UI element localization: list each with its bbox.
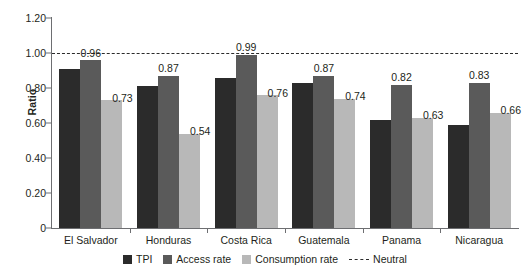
legend-swatch-icon (123, 255, 132, 264)
x-axis-category-label: Costa Rica (207, 234, 285, 250)
x-axis-category-label: Panama (363, 234, 441, 250)
chart-legend: TPIAccess rateConsumption rateNeutral (0, 253, 530, 265)
bar-rect (469, 83, 490, 228)
legend-label: Consumption rate (255, 253, 338, 265)
bar-access[interactable]: 0.99 (236, 18, 257, 228)
x-axis-category-label: Guatemala (285, 234, 363, 250)
bar-rect (137, 86, 158, 228)
bar-rect (236, 55, 257, 228)
bar-rect (158, 76, 179, 228)
bar-chart: Ratio 00.200.400.600.801.001.20 0.960.73… (0, 0, 530, 274)
legend-item-consumption[interactable]: Consumption rate (242, 253, 338, 265)
bar-value-label: 0.99 (236, 42, 256, 53)
y-axis-tick-label: 1.00 (6, 47, 46, 59)
x-axis-tick-mark (363, 228, 364, 233)
bar-group: 0.960.73 (52, 18, 130, 228)
legend-swatch-icon (163, 255, 172, 264)
bar-consumption[interactable]: 0.74 (334, 18, 355, 228)
bar-tpi[interactable] (448, 18, 469, 228)
bar-access[interactable]: 0.83 (469, 18, 490, 228)
bar-group: 0.830.66 (440, 18, 518, 228)
bar-rect (292, 83, 313, 228)
legend-label: Access rate (176, 253, 231, 265)
bar-rect (391, 85, 412, 229)
x-axis-category-label: Honduras (130, 234, 208, 250)
x-axis-tick-mark (130, 228, 131, 233)
bar-tpi[interactable] (59, 18, 80, 228)
bar-consumption[interactable]: 0.63 (412, 18, 433, 228)
bar-consumption[interactable]: 0.76 (257, 18, 278, 228)
y-axis-tick-label: 0 (6, 222, 46, 234)
bar-rect (101, 100, 122, 228)
legend-label: Neutral (373, 253, 407, 265)
x-axis-category-label: Nicaragua (440, 234, 518, 250)
bar-rect (80, 60, 101, 228)
bar-value-label: 0.82 (391, 72, 411, 83)
bar-rect (215, 78, 236, 229)
bar-tpi[interactable] (292, 18, 313, 228)
bar-groups: 0.960.730.870.540.990.760.870.740.820.63… (52, 18, 518, 228)
bar-value-label: 0.83 (469, 70, 489, 81)
bar-rect (490, 113, 511, 229)
bar-rect (334, 99, 355, 229)
bar-group: 0.820.63 (363, 18, 441, 228)
bar-consumption[interactable]: 0.73 (101, 18, 122, 228)
x-axis-category-labels: El SalvadorHondurasCosta RicaGuatemalaPa… (52, 234, 518, 250)
y-axis-tick-label: 1.20 (6, 12, 46, 24)
bar-tpi[interactable] (370, 18, 391, 228)
bar-value-label: 0.66 (501, 105, 521, 116)
bar-rect (448, 125, 469, 228)
x-axis-tick-mark (440, 228, 441, 233)
x-axis-category-label: El Salvador (52, 234, 130, 250)
y-axis-tick-label: 0.20 (6, 187, 46, 199)
bar-access[interactable]: 0.82 (391, 18, 412, 228)
y-axis-tick-label: 0.60 (6, 117, 46, 129)
x-axis-tick-mark (207, 228, 208, 233)
bar-group: 0.870.74 (285, 18, 363, 228)
dashed-line-icon (349, 259, 369, 260)
bar-rect (412, 118, 433, 228)
legend-item-access[interactable]: Access rate (163, 253, 231, 265)
bar-rect (257, 95, 278, 228)
bar-consumption[interactable]: 0.66 (490, 18, 511, 228)
bar-rect (59, 69, 80, 228)
bar-group: 0.990.76 (207, 18, 285, 228)
bar-consumption[interactable]: 0.54 (179, 18, 200, 228)
bar-tpi[interactable] (215, 18, 236, 228)
bar-group: 0.870.54 (130, 18, 208, 228)
bar-value-label: 0.87 (314, 63, 334, 74)
bar-access[interactable]: 0.87 (313, 18, 334, 228)
x-axis-tick-mark (285, 228, 286, 233)
bar-value-label: 0.96 (81, 48, 101, 59)
legend-swatch-icon (242, 255, 251, 264)
bar-value-label: 0.87 (158, 63, 178, 74)
legend-item-neutral[interactable]: Neutral (349, 253, 407, 265)
bar-rect (370, 120, 391, 229)
y-axis-tick-label: 0.80 (6, 82, 46, 94)
y-axis-tick-label: 0.40 (6, 152, 46, 164)
bar-rect (313, 76, 334, 228)
bar-rect (179, 134, 200, 229)
bar-access[interactable]: 0.96 (80, 18, 101, 228)
legend-label: TPI (136, 253, 152, 265)
bar-tpi[interactable] (137, 18, 158, 228)
legend-item-tpi[interactable]: TPI (123, 253, 152, 265)
bar-access[interactable]: 0.87 (158, 18, 179, 228)
